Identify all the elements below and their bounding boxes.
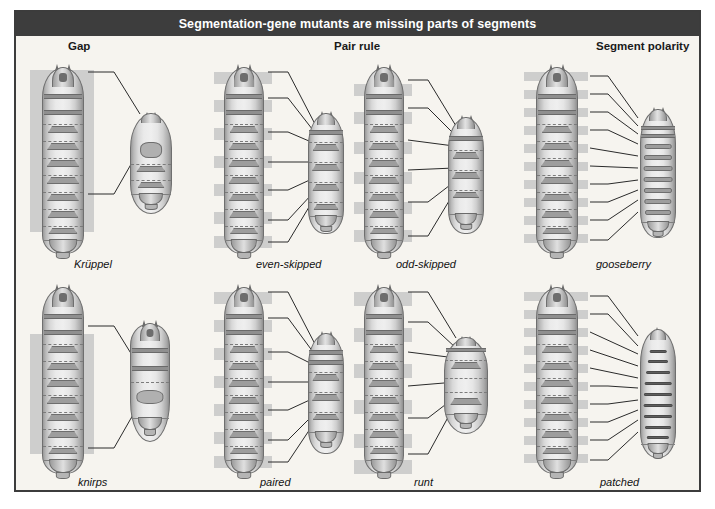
- denticle-belt: [229, 143, 259, 150]
- denticle-belt: [230, 228, 258, 234]
- denticle-belt: [451, 362, 481, 369]
- denticle-belt: [541, 160, 574, 167]
- thoracic-band: [226, 330, 263, 335]
- denticle-belt: [644, 199, 671, 204]
- paired-wildtype-larva: [224, 288, 264, 474]
- tail-spiracle: [145, 204, 158, 210]
- denticle-belt: [230, 346, 259, 353]
- figure-title: Segmentation-gene mutants are missing pa…: [179, 17, 537, 31]
- thoracic-band: [44, 330, 83, 335]
- tail-spiracle: [460, 224, 472, 230]
- figure-title-bar: Segmentation-gene mutants are missing pa…: [16, 12, 699, 36]
- eve-wildtype-larva: [224, 68, 264, 254]
- denticle-belt: [541, 363, 573, 370]
- larva-head: [317, 113, 335, 125]
- denticle-belt: [48, 228, 77, 234]
- tail-spiracle: [653, 453, 663, 459]
- denticle-belt: [541, 194, 573, 201]
- denticle-belt: [48, 448, 77, 454]
- thoracic-band: [226, 314, 263, 319]
- larva-head: [141, 113, 161, 123]
- denticle-belt: [644, 404, 673, 407]
- runt-wildtype-larva: [364, 288, 404, 474]
- larva-head: [649, 109, 667, 121]
- denticle-belt: [312, 394, 340, 401]
- kruppel-mutant-larva: [130, 114, 172, 214]
- panel-knirps: knirps: [22, 284, 194, 489]
- mouth-hook-icon: [240, 73, 248, 82]
- thoracic-band: [226, 94, 263, 99]
- tail-spiracle: [56, 252, 70, 259]
- mouth-hook-icon: [240, 293, 248, 302]
- panel-odd-skipped: odd-skipped: [352, 62, 500, 277]
- thoracic-band: [366, 330, 403, 335]
- thoracic-band: [366, 314, 403, 319]
- denticle-belt: [541, 211, 572, 218]
- denticle-belt: [47, 160, 80, 167]
- thoracic-band: [132, 366, 169, 371]
- tail-spiracle: [56, 472, 70, 479]
- denticle-belt: [370, 448, 398, 454]
- thoracic-band: [132, 348, 169, 353]
- thoracic-band: [641, 126, 674, 130]
- denticle-belt: [369, 414, 399, 421]
- denticle-belt: [48, 346, 78, 353]
- column-header-segment-polarity: Segment polarity: [596, 40, 689, 52]
- denticle-belt: [644, 166, 673, 171]
- denticle-belt: [312, 374, 339, 381]
- tail-spiracle: [377, 252, 391, 259]
- panel-runt: runt: [352, 284, 500, 489]
- denticle-belt: [647, 436, 669, 439]
- denticle-belt: [230, 448, 258, 454]
- thoracic-band: [538, 314, 577, 319]
- column-header-pair-rule: Pair rule: [334, 40, 380, 52]
- denticle-belt: [645, 426, 671, 429]
- tail-spiracle: [320, 226, 332, 232]
- denticle-belt: [542, 228, 571, 234]
- denticle-belt: [313, 414, 340, 420]
- denticle-belt: [369, 211, 399, 218]
- denticle-belt: [47, 380, 80, 387]
- panel-gooseberry: gooseberry: [516, 62, 694, 277]
- denticle-belt: [541, 414, 573, 421]
- tail-spiracle: [550, 472, 564, 479]
- denticle-belt: [368, 177, 399, 184]
- denticle-belt: [136, 390, 163, 404]
- odd-wildtype-larva: [364, 68, 404, 254]
- runt-mutant-larva: [444, 338, 488, 434]
- denticle-belt: [542, 346, 572, 353]
- denticle-belt: [450, 398, 482, 405]
- panel-even-skipped: even-skipped: [212, 62, 360, 277]
- leader-lines: [590, 292, 642, 470]
- thoracic-band: [226, 110, 263, 115]
- kruppel-wildtype-larva: [42, 68, 84, 254]
- denticle-belt: [47, 194, 79, 201]
- panel-label-odd-skipped: odd-skipped: [396, 258, 456, 270]
- denticle-belt: [47, 397, 80, 404]
- denticle-belt: [47, 414, 79, 421]
- denticle-belt: [541, 397, 574, 404]
- ptc-wildtype-larva: [536, 288, 578, 474]
- denticle-belt: [541, 143, 573, 150]
- panel-label-paired: paired: [260, 476, 291, 488]
- column-header-gap: Gap: [68, 40, 90, 52]
- denticle-belt: [47, 211, 78, 218]
- odd-mutant-larva: [448, 118, 484, 234]
- leader-lines: [590, 72, 642, 248]
- mouth-hook-icon: [380, 293, 388, 302]
- larva-head: [457, 117, 475, 129]
- denticle-belt: [229, 414, 259, 421]
- gsb-mutant-larva: [640, 110, 676, 238]
- denticle-belt: [229, 431, 259, 438]
- denticle-belt: [542, 126, 572, 133]
- denticle-belt: [644, 188, 672, 193]
- denticle-belt: [453, 192, 480, 198]
- denticle-belt: [229, 363, 259, 370]
- thoracic-band: [44, 314, 83, 319]
- denticle-belt: [47, 177, 80, 184]
- denticle-belt: [645, 210, 671, 215]
- denticle-belt: [646, 371, 670, 374]
- denticle-belt: [370, 346, 399, 353]
- denticle-belt: [368, 397, 399, 404]
- tail-spiracle: [320, 442, 332, 448]
